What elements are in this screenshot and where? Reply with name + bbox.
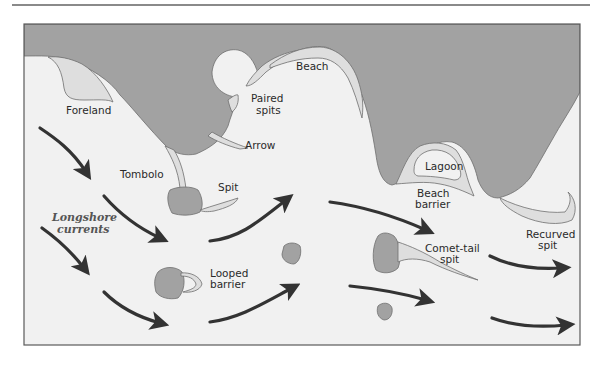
looped-barrier-island: [155, 268, 184, 299]
label-longshore-2: currents: [57, 223, 110, 236]
label-beach: Beach: [296, 60, 329, 72]
label-paired-spits-2: spits: [256, 104, 281, 116]
label-arrow: Arrow: [245, 139, 276, 151]
comet-tail-island: [373, 233, 400, 273]
coastal-landforms-diagram: Foreland Paired spits Beach Arrow Tombol…: [0, 0, 602, 367]
label-lagoon: Lagoon: [425, 160, 463, 172]
label-spit: Spit: [218, 181, 238, 193]
label-beach-barrier-2: barrier: [415, 198, 451, 210]
small-island-mid: [282, 243, 301, 264]
label-comet-tail-2: spit: [440, 253, 459, 265]
small-island-bottom: [377, 303, 392, 320]
label-foreland: Foreland: [66, 104, 111, 116]
label-recurved-2: spit: [538, 239, 557, 251]
tombolo-island: [168, 187, 202, 215]
label-paired-spits: Paired: [251, 92, 283, 104]
label-tombolo: Tombolo: [119, 168, 164, 180]
label-looped-barrier-2: barrier: [210, 278, 246, 290]
